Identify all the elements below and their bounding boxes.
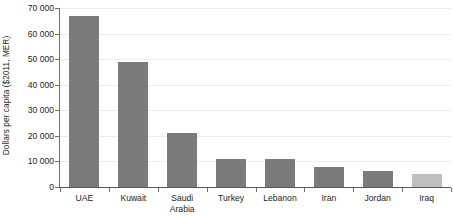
bar-slot — [158, 8, 207, 187]
bar[interactable] — [216, 159, 246, 187]
bar[interactable] — [118, 62, 148, 187]
x-axis-tick-mark — [451, 188, 452, 192]
x-axis-tick-mark — [402, 188, 403, 192]
bar-slot — [353, 8, 402, 187]
y-axis-tick-labels: 010 00020 00030 00040 00050 00060 00070 … — [14, 0, 59, 195]
bar[interactable] — [167, 133, 197, 187]
y-axis-tick-label: 10 000 — [28, 156, 54, 166]
y-axis-tick-label: 40 000 — [28, 80, 54, 90]
y-axis-title-text: Dollars per capita ($2011, MER) — [3, 35, 12, 154]
x-axis-tick-label: Lebanon — [256, 193, 305, 216]
bar-slot — [60, 8, 109, 187]
bar[interactable] — [69, 16, 99, 187]
x-axis-tick-mark — [353, 188, 354, 192]
x-axis-tick-label: Turkey — [207, 193, 256, 216]
x-axis-tick-label: Jordan — [353, 193, 402, 216]
bars-layer — [60, 8, 451, 187]
bar[interactable] — [363, 171, 393, 187]
bar[interactable] — [265, 159, 295, 187]
y-axis-tick-label: 0 — [49, 182, 54, 192]
x-axis-tick-label: Kuwait — [109, 193, 158, 216]
y-axis-tick-label: 20 000 — [28, 131, 54, 141]
x-axis-tick-mark — [158, 188, 159, 192]
x-axis-tick-label: SaudiArabia — [158, 193, 207, 216]
plot-area — [59, 8, 451, 187]
bar-slot — [304, 8, 353, 187]
bar[interactable] — [412, 174, 442, 187]
y-axis-title: Dollars per capita ($2011, MER) — [0, 0, 14, 190]
y-axis-tick-label: 60 000 — [28, 29, 54, 39]
bar[interactable] — [314, 167, 344, 187]
x-axis-tick-labels: UAEKuwaitSaudiArabiaTurkeyLebanonIranJor… — [60, 193, 451, 216]
x-axis-tick-label: Iran — [304, 193, 353, 216]
x-axis-tick-mark — [60, 188, 61, 192]
bar-slot — [109, 8, 158, 187]
y-axis-tick-label: 30 000 — [28, 105, 54, 115]
x-axis-tick-mark — [256, 188, 257, 192]
y-axis-tick-label: 50 000 — [28, 54, 54, 64]
x-axis-tick-label: Iraq — [402, 193, 451, 216]
bar-chart: Dollars per capita ($2011, MER) 010 0002… — [0, 0, 453, 216]
x-axis-ticks — [60, 188, 451, 192]
y-axis-tick-label: 70 000 — [28, 3, 54, 13]
x-axis-tick-label: UAE — [60, 193, 109, 216]
x-axis-tick-mark — [207, 188, 208, 192]
x-axis-tick-mark — [304, 188, 305, 192]
bar-slot — [402, 8, 451, 187]
x-axis-tick-mark — [109, 188, 110, 192]
bar-slot — [256, 8, 305, 187]
bar-slot — [207, 8, 256, 187]
